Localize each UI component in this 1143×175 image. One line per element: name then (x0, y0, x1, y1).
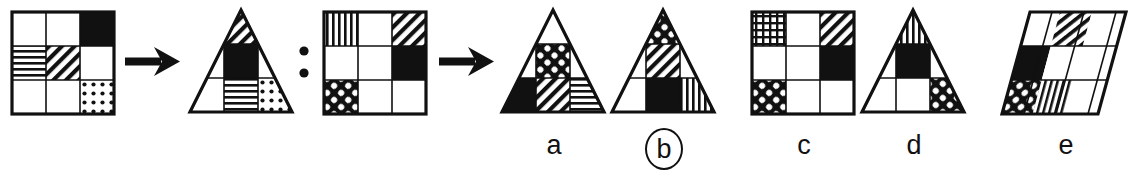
target-square-figure (320, 8, 432, 120)
option-a[interactable] (498, 6, 610, 120)
option-d-cells (862, 10, 964, 112)
cell-r2c0 (12, 80, 46, 114)
option-a-svg[interactable] (498, 6, 610, 120)
cell-r1c0 (752, 46, 786, 80)
arrow-c-to-answer (438, 45, 496, 79)
cell-r1c0 (324, 46, 358, 80)
cell-r1c1 (536, 44, 570, 78)
cell-r0c1 (896, 10, 930, 44)
source-triangle-figure (186, 6, 298, 120)
cell-r0c2 (930, 10, 964, 44)
source-square-svg (8, 8, 120, 120)
cell-r2c0 (612, 78, 646, 112)
cell-r1c1 (786, 46, 820, 80)
option-a-label[interactable]: a (534, 132, 574, 159)
cell-r2c0 (190, 78, 224, 112)
colon-dot-lower (299, 68, 308, 77)
option-b-label: b (656, 136, 671, 163)
cell-r0c2 (80, 12, 114, 46)
option-b-cells (612, 10, 714, 112)
option-c-svg[interactable] (748, 8, 860, 120)
option-c[interactable] (748, 8, 860, 120)
cell-r2c2 (820, 80, 854, 114)
cell-r1c0 (862, 44, 896, 78)
cell-r2c1 (896, 78, 930, 112)
cell-r0c1 (224, 10, 258, 44)
option-c-label[interactable]: c (784, 132, 824, 159)
cell-r0c0 (324, 12, 358, 46)
cell-r1c2 (570, 44, 604, 78)
option-b-svg[interactable] (608, 6, 720, 120)
cell-r0c0 (752, 12, 786, 46)
cell-r1c0 (502, 44, 536, 78)
cell-r1c1 (896, 44, 930, 78)
target-square-svg (320, 8, 432, 120)
cell-r0c0 (612, 10, 646, 44)
cell-r2c2 (392, 80, 426, 114)
cell-r0c2 (680, 10, 714, 44)
cell-r1c2 (820, 46, 854, 80)
source-triangle-svg (186, 6, 298, 120)
colon-dot-upper (299, 46, 308, 55)
cell-r2c0 (502, 78, 536, 112)
cell-r2c1 (536, 78, 570, 112)
cell-r2c1 (646, 78, 680, 112)
cell-r2c2 (680, 78, 714, 112)
cell-r2c0 (862, 78, 896, 112)
cell-r0c1 (536, 10, 570, 44)
arrow-right-icon (439, 47, 494, 76)
cell-r1c2 (392, 46, 426, 80)
cell-r0c0 (862, 10, 896, 44)
cell-r0c2 (570, 10, 604, 44)
cell-r0c1 (646, 10, 680, 44)
cell-r2c2 (570, 78, 604, 112)
selected-answer-circle[interactable]: b (645, 128, 683, 170)
cell-r1c0 (612, 44, 646, 78)
option-d-label[interactable]: d (894, 132, 934, 159)
arrow-a-to-b (124, 45, 182, 79)
option-e-label[interactable]: e (1046, 132, 1086, 159)
analogy-problem-canvas: a b (0, 0, 1143, 175)
option-d-svg[interactable] (858, 6, 970, 120)
cell-r0c1 (358, 12, 392, 46)
cell-r1c2 (258, 44, 292, 78)
cell-r2c1 (358, 80, 392, 114)
cell-r0c0 (12, 12, 46, 46)
option-e-svg[interactable] (998, 8, 1132, 120)
option-e-cells (993, 12, 1128, 114)
cell-r1c1 (646, 44, 680, 78)
cell-r1c1 (46, 46, 80, 80)
cell-r0c1 (786, 12, 820, 46)
cell-r2c2 (930, 78, 964, 112)
cell-r0c2 (392, 12, 426, 46)
cell-r1c0 (12, 46, 46, 80)
option-c-cells (752, 12, 854, 114)
source-triangle-cells (190, 10, 292, 112)
cell-r1c2 (680, 44, 714, 78)
option-e[interactable] (998, 8, 1132, 120)
cell-r0c2 (258, 10, 292, 44)
cell-r2c0 (752, 80, 786, 114)
cell-r2c1 (46, 80, 80, 114)
source-square-cells (12, 12, 114, 114)
cell-r2c1 (224, 78, 258, 112)
analogy-colon (296, 44, 312, 84)
cell-r0c1 (46, 12, 80, 46)
cell-r2c0 (324, 80, 358, 114)
cell-r2c2 (80, 80, 114, 114)
option-b[interactable] (608, 6, 720, 120)
cell-r0c0 (502, 10, 536, 44)
cell-r2c1 (786, 80, 820, 114)
cell-r1c2 (930, 44, 964, 78)
source-square-figure (8, 8, 120, 120)
cell-r0c0 (190, 10, 224, 44)
cell-r1c1 (224, 44, 258, 78)
cell-r1c0 (190, 44, 224, 78)
arrow-right-icon (125, 47, 180, 76)
option-d[interactable] (858, 6, 970, 120)
cell-r2c2 (258, 78, 292, 112)
cell-r1c1 (358, 46, 392, 80)
cell-r1c2 (80, 46, 114, 80)
target-square-cells (324, 12, 426, 114)
cell-r0c2 (820, 12, 854, 46)
